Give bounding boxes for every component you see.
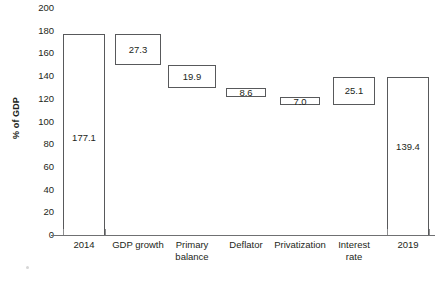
y-axis-tick-20: 20 (43, 208, 54, 218)
bar-value-label: 19.9 (183, 72, 202, 82)
bar-value-label: 25.1 (345, 86, 364, 96)
y-axis-title-text: % of GDP (11, 97, 21, 139)
bar-deflator[interactable]: 8.6 (226, 88, 266, 98)
bar-value-label: 177.1 (72, 133, 96, 143)
x-axis-tick (429, 229, 430, 235)
bar-interest-rate[interactable]: 25.1 (333, 77, 375, 105)
y-axis-tick-60: 60 (43, 162, 54, 172)
x-axis-label-2019: 2019 (368, 239, 442, 251)
y-axis-tick-labels: 200180160140120100806040200 (24, 0, 54, 235)
scan-artifact (26, 266, 29, 269)
y-axis-tick-140: 140 (38, 71, 54, 81)
y-axis-tick-160: 160 (38, 49, 54, 59)
waterfall-chart: % of GDP 200180160140120100806040200 177… (0, 0, 442, 281)
y-axis-tick-100: 100 (38, 117, 54, 127)
y-axis-tick-80: 80 (43, 139, 54, 149)
bar-2014[interactable]: 177.1 (63, 34, 105, 235)
y-axis-tick-200: 200 (38, 3, 54, 13)
y-axis-title: % of GDP (8, 0, 24, 235)
bar-value-label: 8.6 (239, 88, 252, 98)
y-axis-tick-180: 180 (38, 26, 54, 36)
bar-value-label: 139.4 (396, 142, 420, 152)
y-axis-tick-40: 40 (43, 185, 54, 195)
x-axis-tick (63, 229, 64, 235)
x-axis-category-labels: 2014GDP growthPrimary balanceDeflatorPri… (57, 239, 435, 281)
bar-value-label: 27.3 (129, 45, 148, 55)
bar-primary-balance[interactable]: 19.9 (168, 65, 216, 88)
y-axis-tick-120: 120 (38, 94, 54, 104)
x-axis-line (57, 235, 435, 236)
bar-privatization[interactable]: 7.0 (280, 97, 320, 105)
bar-2019[interactable]: 139.4 (387, 77, 429, 235)
bar-value-label: 7.0 (293, 97, 306, 107)
bar-gdp-growth[interactable]: 27.3 (115, 34, 161, 65)
x-axis-tick (387, 229, 388, 235)
plot-area: 177.127.319.98.67.025.1139.4 (57, 8, 435, 235)
x-axis-tick (105, 229, 106, 235)
